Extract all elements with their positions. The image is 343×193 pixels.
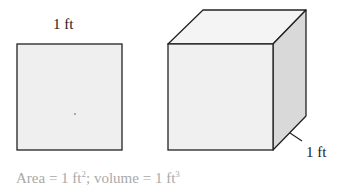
cube-front-face (168, 44, 273, 150)
caption-volume-text: ; volume = 1 ft (86, 170, 175, 186)
depth-leader-line (290, 133, 302, 141)
unit-square (17, 44, 122, 150)
caption-area-text: Area = 1 ft (16, 170, 82, 186)
caption-volume-exponent: 3 (175, 169, 180, 179)
figure-caption: Area = 1 ft2; volume = 1 ft3 (16, 171, 180, 186)
square-center-dot (74, 113, 76, 115)
cube-depth-label: 1 ft (306, 145, 326, 160)
unit-cube (168, 10, 306, 150)
square-side-label: 1 ft (53, 17, 73, 32)
diagram-canvas (0, 0, 343, 193)
